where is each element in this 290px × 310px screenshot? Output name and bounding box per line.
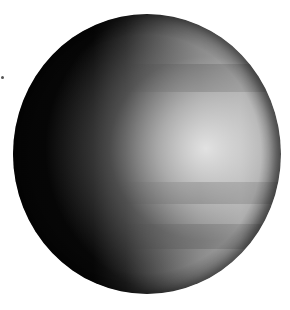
dust-speck	[1, 76, 4, 79]
image-canvas	[0, 0, 290, 310]
planet-globe	[13, 14, 281, 294]
limb-darkening	[13, 14, 281, 294]
